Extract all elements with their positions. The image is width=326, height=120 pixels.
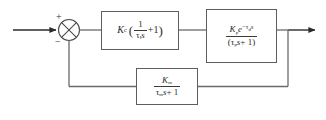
process-block[interactable]: Kpe−τds (τps+ 1)	[206, 9, 277, 63]
process-transfer-fraction: Kpe−τds (τps+ 1)	[226, 24, 257, 47]
measurement-gain-subscript: m	[168, 80, 172, 85]
summing-junction-minus-sign: −	[55, 36, 61, 47]
summing-junction-plus-sign: +	[56, 11, 62, 22]
measurement-formula: Km τms+ 1	[153, 76, 182, 98]
controller-paren-close: )	[158, 24, 162, 37]
controller-gain-symbol: K	[117, 25, 124, 35]
process-den-paren-close: )	[252, 37, 255, 47]
process-den-plus-one: + 1	[240, 37, 252, 47]
measurement-transfer-fraction: Km τms+ 1	[154, 76, 181, 98]
measurement-denominator: τms+ 1	[154, 86, 181, 97]
controller-gain-subscript: c	[124, 27, 127, 33]
controller-fraction-denominator: τIs	[134, 30, 147, 41]
process-denominator: (τps+ 1)	[226, 36, 257, 47]
controller-integral-fraction: 1 τIs	[134, 20, 147, 41]
block-diagram-canvas: + − Kc ( 1 τIs +1 ) Kpe−τds (τps+ 1) Km	[0, 0, 326, 120]
controller-block[interactable]: Kc ( 1 τIs +1 )	[101, 11, 179, 50]
controller-formula: Kc ( 1 τIs +1 )	[117, 20, 163, 41]
controller-paren-open: (	[129, 24, 133, 37]
controller-plus-one: +1	[148, 25, 159, 35]
process-exponent-s: s	[251, 23, 254, 30]
controller-fraction-numerator: 1	[136, 20, 145, 30]
process-formula: Kpe−τds (τps+ 1)	[225, 24, 258, 47]
measurement-numerator: Km	[160, 76, 174, 86]
measurement-plus-one: + 1	[167, 87, 179, 97]
measurement-block[interactable]: Km τms+ 1	[136, 68, 198, 105]
controller-laplace-s: s	[141, 30, 145, 40]
process-numerator: Kpe−τds	[228, 24, 256, 36]
